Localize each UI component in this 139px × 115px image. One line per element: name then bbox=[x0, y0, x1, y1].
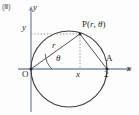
origin-label: O bbox=[22, 70, 29, 79]
point-marker-p bbox=[79, 33, 82, 36]
figure-canvas bbox=[0, 0, 139, 115]
y-axis-label: y bbox=[33, 3, 37, 12]
point-a-label: A bbox=[106, 54, 113, 63]
x-axis-label: x bbox=[127, 64, 131, 73]
point-p-label: P(r, θ) bbox=[82, 20, 105, 29]
point-marker-o bbox=[30, 68, 33, 71]
y-coordinate-label: y bbox=[22, 23, 26, 32]
panel-tag-label: (ⅲ) bbox=[2, 3, 11, 10]
radius-label: r bbox=[52, 41, 56, 50]
point-p-suffix: ) bbox=[102, 19, 105, 29]
angle-label: θ bbox=[56, 54, 60, 63]
point-p-prefix: P( bbox=[82, 19, 90, 29]
point-a-value-label: 2 bbox=[104, 70, 109, 79]
x-coordinate-label: x bbox=[76, 70, 80, 79]
polar-coordinate-figure: (ⅲ) y x O y x P(r, θ) A 2 r θ bbox=[0, 0, 139, 115]
